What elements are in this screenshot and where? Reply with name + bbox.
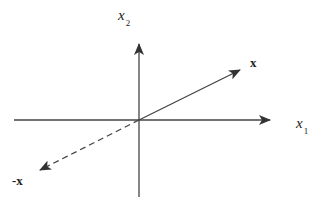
x2-axis-label: x2 bbox=[117, 7, 130, 28]
vector-neg-x bbox=[40, 120, 139, 170]
vector-x bbox=[139, 70, 240, 120]
vector-neg-x-label: -x bbox=[12, 173, 23, 188]
vector-x-label: x bbox=[250, 55, 257, 70]
vector-diagram: x2 x1 x -x bbox=[0, 0, 316, 203]
x1-axis-label: x1 bbox=[295, 115, 308, 136]
